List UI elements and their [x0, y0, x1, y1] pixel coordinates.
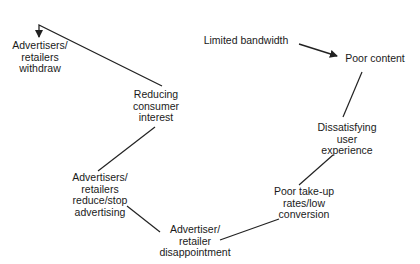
edge-bandwidth-to-content	[299, 44, 337, 56]
node-limited-bandwidth: Limited bandwidth	[204, 35, 289, 47]
node-line: Poor content	[345, 53, 405, 65]
node-advertisers-withdraw: Advertisers/ retailers withdraw	[12, 40, 67, 75]
diagram-canvas: Advertisers/ retailers withdraw Reducing…	[0, 0, 420, 264]
node-advertisers-reduce-advertising: Advertisers/ retailers reduce/stop adver…	[72, 172, 127, 218]
edge-disappointment-to-reduce	[127, 206, 160, 232]
node-poor-take-up: Poor take-up rates/low conversion	[274, 186, 334, 221]
node-line: Poor take-up	[274, 186, 334, 198]
node-line: conversion	[274, 209, 334, 221]
edge-reduce-to-interest	[98, 127, 155, 171]
node-dissatisfying-user-experience: Dissatisfying user experience	[318, 122, 377, 157]
node-line: Advertisers/	[72, 172, 127, 184]
node-line: experience	[318, 145, 377, 157]
node-line: withdraw	[12, 63, 67, 75]
node-line: interest	[133, 112, 179, 124]
node-reducing-consumer-interest: Reducing consumer interest	[133, 89, 179, 124]
node-line: disappointment	[159, 247, 230, 259]
node-line: advertising	[72, 207, 127, 219]
node-line: reduce/stop	[72, 195, 127, 207]
edge-content-to-dissatisfying	[343, 72, 362, 117]
node-line: Dissatisfying	[318, 122, 377, 134]
node-line: Limited bandwidth	[204, 35, 289, 47]
node-advertiser-disappointment: Advertiser/ retailer disappointment	[159, 224, 230, 259]
node-line: Advertisers/	[12, 40, 67, 52]
node-poor-content: Poor content	[345, 53, 405, 65]
node-line: Advertiser/	[159, 224, 230, 236]
edge-dissatisfying-to-takeup	[299, 155, 333, 185]
node-line: Reducing	[133, 89, 179, 101]
